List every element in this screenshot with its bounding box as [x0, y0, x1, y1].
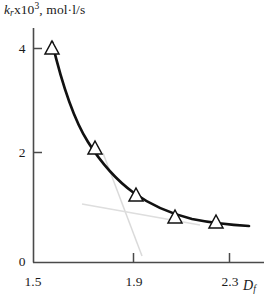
- y-tick-label-2: 2: [14, 145, 30, 161]
- chart-figure: krx103, mol·l/s 4 2 0 1.5 1.9: [0, 0, 270, 302]
- x-axis-ticks: [134, 253, 230, 262]
- x-axis-title: Df: [243, 278, 256, 294]
- x-axis-subscript: f: [253, 284, 256, 294]
- x-axis-symbol: D: [243, 278, 253, 293]
- y-axis-ticks: [33, 49, 42, 153]
- plot-area: [0, 0, 270, 302]
- y-tick-label-4: 4: [14, 41, 30, 57]
- y-tick-label-0: 0: [14, 254, 30, 270]
- data-point-marker: [45, 41, 59, 54]
- x-tick-label-1-5: 1.5: [13, 274, 53, 290]
- shallow-guide-line: [82, 204, 200, 225]
- data-markers-group: [45, 41, 223, 228]
- guide-lines-group: [82, 153, 200, 256]
- data-curve: [52, 42, 249, 226]
- axes-group: [33, 28, 264, 263]
- x-tick-label-1-9: 1.9: [114, 274, 154, 290]
